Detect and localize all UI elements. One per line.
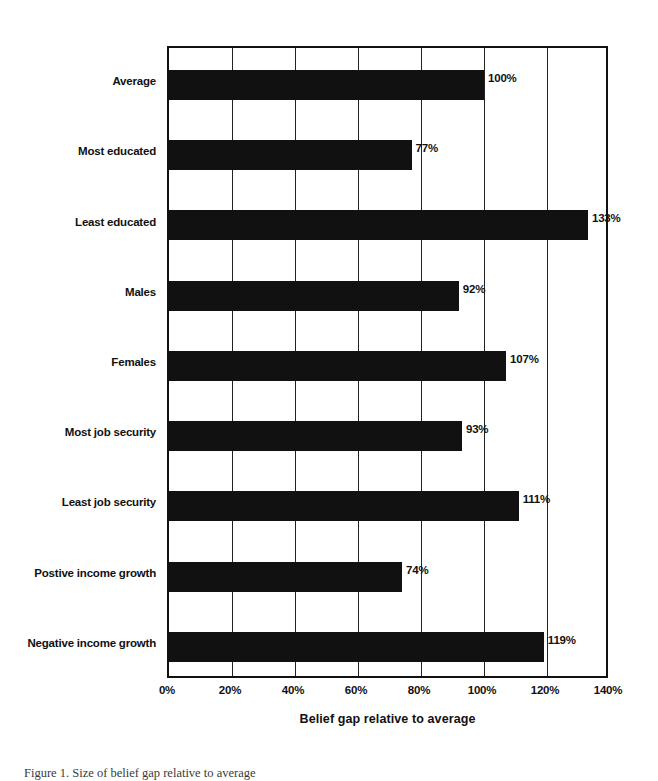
x-axis-tick-labels: 0%20%40%60%80%100%120%140% <box>167 684 608 702</box>
bar-row: 111% <box>169 469 606 539</box>
bar-row: 107% <box>169 329 606 399</box>
bar <box>169 210 588 240</box>
bar <box>169 421 462 451</box>
bar-value-label: 77% <box>416 141 438 155</box>
category-label: Postive income growth <box>34 566 156 580</box>
category-label: Most educated <box>78 144 156 158</box>
category-label: Females <box>111 355 156 369</box>
bar <box>169 281 459 311</box>
bar <box>169 140 412 170</box>
x-axis-title: Belief gap relative to average <box>167 712 608 726</box>
bar-row: 133% <box>169 188 606 258</box>
bar-value-label: 92% <box>463 282 485 296</box>
category-label: Least educated <box>75 215 156 229</box>
category-label: Most job security <box>65 425 156 439</box>
bar-value-label: 74% <box>406 563 428 577</box>
bar <box>169 491 519 521</box>
bar-value-label: 93% <box>466 422 488 436</box>
x-tick-label: 0% <box>159 684 175 696</box>
bar-value-label: 111% <box>523 492 550 506</box>
figure-caption: Figure 1. Size of belief gap relative to… <box>24 766 638 781</box>
y-axis-category-labels: AverageMost educatedLeast educatedMalesF… <box>0 46 160 678</box>
bar-row: 74% <box>169 540 606 610</box>
plot-area: 100%77%133%92%107%93%111%74%119% <box>167 46 608 678</box>
x-tick-label: 80% <box>408 684 430 696</box>
x-tick-label: 20% <box>219 684 241 696</box>
bar <box>169 351 506 381</box>
category-label: Negative income growth <box>27 636 156 650</box>
bar <box>169 562 402 592</box>
bar-value-label: 107% <box>510 352 539 366</box>
bar-row: 77% <box>169 118 606 188</box>
bar-row: 93% <box>169 399 606 469</box>
bar-row: 119% <box>169 610 606 680</box>
bar-value-label: 100% <box>488 71 517 85</box>
bar-value-label: 119% <box>548 633 576 647</box>
bar-value-label: 133% <box>592 211 621 225</box>
bar-row: 100% <box>169 48 606 118</box>
category-label: Least job security <box>62 495 156 509</box>
x-tick-label: 140% <box>594 684 623 696</box>
x-tick-label: 100% <box>468 684 497 696</box>
bar-row: 92% <box>169 259 606 329</box>
category-label: Average <box>112 74 156 88</box>
x-tick-label: 60% <box>345 684 367 696</box>
x-tick-label: 40% <box>282 684 304 696</box>
x-tick-label: 120% <box>531 684 560 696</box>
category-label: Males <box>125 285 156 299</box>
bar <box>169 632 544 662</box>
bar <box>169 70 484 100</box>
